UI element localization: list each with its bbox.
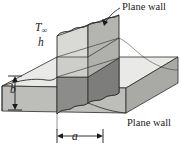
label-plane-wall-bottom: Plane wall bbox=[127, 118, 171, 129]
intersection-upper-band-left bbox=[57, 57, 88, 77]
label-t-infinity-subscript: ∞ bbox=[41, 26, 47, 35]
label-h: h bbox=[38, 37, 44, 49]
label-dimension-b: b bbox=[10, 84, 16, 96]
label-plane-wall-top: Plane wall bbox=[122, 2, 166, 13]
dim-a-arrow-right bbox=[97, 133, 103, 139]
label-dimension-a: a bbox=[72, 131, 78, 143]
plane-walls-figure: Plane wall Plane wall T∞ h b a bbox=[0, 0, 181, 151]
label-t-infinity: T∞ bbox=[35, 22, 47, 35]
dim-a-arrow-left bbox=[57, 133, 63, 139]
